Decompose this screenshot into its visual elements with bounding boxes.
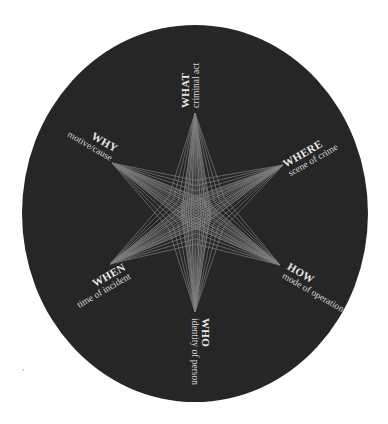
label-what: WHAT criminal act (180, 63, 202, 108)
label-what-subtitle: criminal act (192, 63, 202, 108)
label-what-title: WHAT (180, 63, 191, 108)
label-who: WHO identity of person (190, 318, 212, 385)
label-who-subtitle: identity of person (190, 318, 200, 385)
dust-speck (22, 369, 24, 371)
label-who-title: WHO (200, 318, 211, 385)
six-ws-diagram: WHAT criminal act WHERE scene of crime H… (0, 0, 388, 424)
